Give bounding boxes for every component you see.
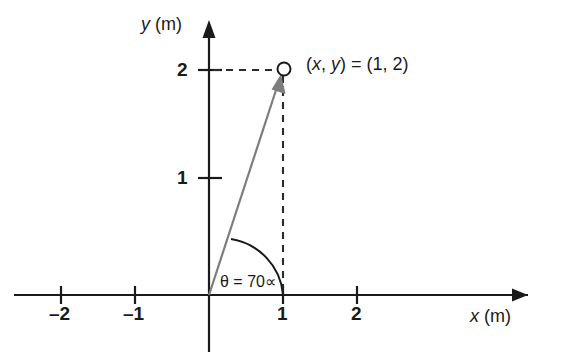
position-vector-line [209,84,278,295]
x-axis-label: x (m) [470,307,511,325]
x-tick-label-2: 2 [351,304,362,323]
position-vector [209,74,286,295]
y-axis-label-variable: y [141,14,150,34]
point-label-x-variable: x [312,54,321,74]
y-axis-label-unit: (m) [150,14,182,34]
x-axis [14,289,528,302]
x-tick-label--1: –1 [123,304,144,323]
point-label-values: ) = (1, 2) [340,54,409,74]
point-label-y-variable: y [331,54,340,74]
x-axis-label-variable: x [470,306,479,326]
angle-label: θ = 70∝ [220,274,276,290]
point-coordinate-label: (x, y) = (1, 2) [306,55,409,73]
x-axis-arrowhead [512,289,528,302]
y-tick-label-2: 2 [177,60,188,79]
y-axis-arrowhead [203,20,216,38]
point-marker [278,63,291,76]
x-axis-label-unit: (m) [479,306,511,326]
point-label-comma: , [321,54,331,74]
figure-canvas: –2 –1 1 2 1 2 x (m) y (m) (x, y) = (1, 2… [0,0,562,361]
y-tick-label-1: 1 [177,168,188,187]
x-tick-label-1: 1 [277,304,288,323]
x-tick-label--2: –2 [49,304,70,323]
y-axis-label: y (m) [141,15,182,33]
